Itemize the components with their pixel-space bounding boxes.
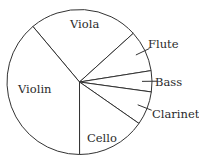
label-cello: Cello: [87, 131, 117, 145]
label-viola: Viola: [69, 17, 99, 31]
label-clarinet: Clarinet: [152, 107, 199, 121]
label-violin: Violin: [17, 82, 52, 96]
label-flute: Flute: [148, 37, 179, 51]
label-bass: Bass: [155, 75, 182, 89]
pie-chart: Viola Flute Bass Clarinet Cello Violin: [0, 0, 199, 161]
